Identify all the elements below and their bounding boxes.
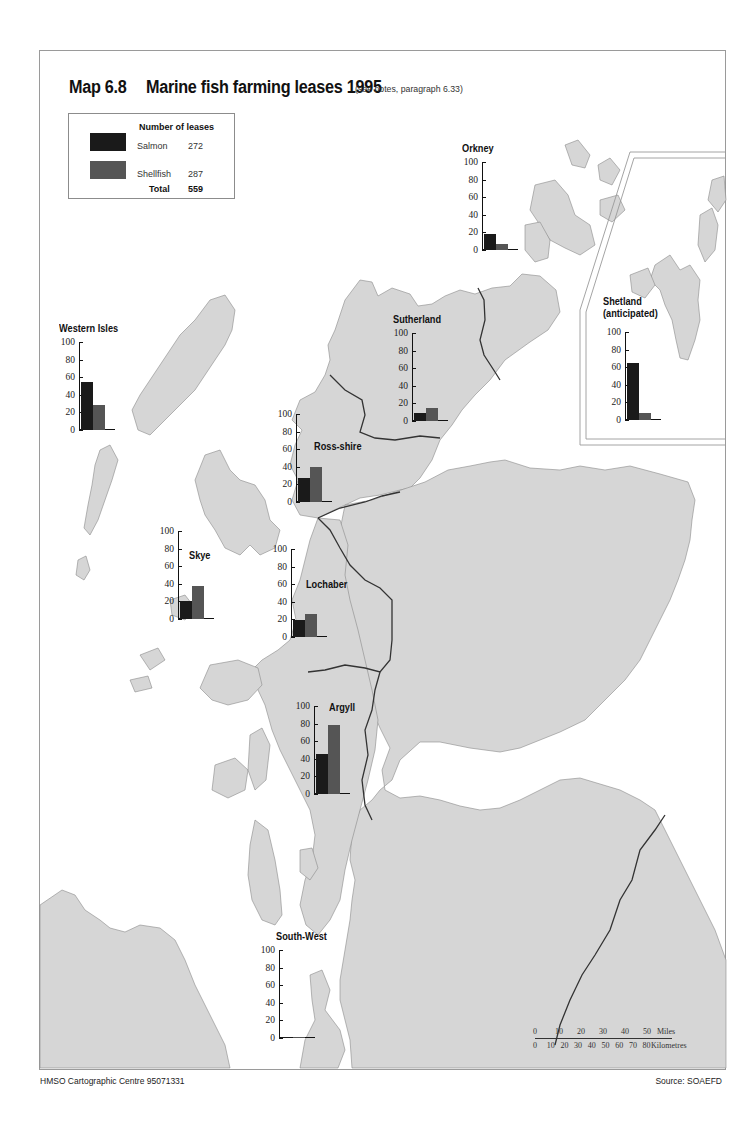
scale-miles-unit: Miles: [657, 1027, 675, 1036]
y-tick-label: 0: [253, 1033, 275, 1043]
scale-km-tick: 40: [588, 1041, 596, 1050]
y-tick-label: 60: [456, 192, 478, 202]
y-tick-mark: [178, 619, 182, 620]
y-tick-label: 0: [386, 416, 408, 426]
land-east-mainland: [328, 460, 726, 1068]
y-tick-label: 20: [386, 398, 408, 408]
y-tick-mark: [625, 332, 629, 333]
scale-km-tick: 60: [615, 1041, 623, 1050]
y-tick-mark: [79, 360, 83, 361]
y-tick-mark: [279, 950, 283, 951]
y-tick-mark: [296, 449, 300, 450]
scale-km-tick: 50: [602, 1041, 610, 1050]
bar-shellfish: [639, 413, 651, 420]
y-tick-label: 60: [53, 372, 75, 382]
y-tick-label: 80: [288, 719, 310, 729]
y-tick-mark: [625, 350, 629, 351]
y-axis: [314, 706, 315, 794]
y-tick-mark: [279, 968, 283, 969]
y-tick-label: 20: [456, 227, 478, 237]
land-kintyre: [248, 820, 282, 925]
y-tick-label: 0: [53, 425, 75, 435]
y-tick-label: 60: [270, 444, 292, 454]
region-label-shetland: Shetland: [603, 296, 642, 307]
scale-miles-tick: 20: [577, 1027, 585, 1036]
y-tick-mark: [291, 567, 295, 568]
y-axis: [482, 162, 483, 250]
y-tick-mark: [279, 1038, 283, 1039]
region-label-shetland-anticipated: (anticipated): [603, 308, 658, 319]
y-tick-label: 40: [53, 390, 75, 400]
y-tick-label: 60: [265, 579, 287, 589]
y-tick-mark: [482, 197, 486, 198]
y-tick-label: 0: [270, 497, 292, 507]
y-tick-mark: [291, 637, 295, 638]
y-tick-label: 20: [599, 397, 621, 407]
land-coll: [140, 648, 165, 670]
plot: 100806040200: [314, 706, 374, 794]
y-tick-mark: [79, 377, 83, 378]
land-jura: [248, 728, 270, 790]
y-tick-mark: [314, 706, 318, 707]
y-tick-mark: [291, 549, 295, 550]
y-axis: [291, 549, 292, 637]
scale-miles-tick: 0: [533, 1027, 537, 1036]
scale-bar: 01020304050Miles 01020304050607080Kilome…: [535, 1027, 715, 1053]
y-tick-label: 0: [152, 614, 174, 624]
scale-miles-tick: 50: [643, 1027, 651, 1036]
region-label-south-west: South-West: [276, 931, 327, 942]
plot: 100806040200: [296, 414, 356, 502]
y-tick-label: 80: [456, 175, 478, 185]
y-tick-mark: [314, 794, 318, 795]
y-tick-label: 40: [456, 210, 478, 220]
bar-salmon: [180, 601, 192, 619]
region-label-orkney: Orkney: [462, 143, 494, 154]
y-tick-label: 80: [53, 355, 75, 365]
y-axis: [296, 414, 297, 502]
y-axis: [178, 531, 179, 619]
y-tick-label: 20: [265, 614, 287, 624]
y-tick-label: 100: [253, 945, 275, 955]
bar-shellfish: [426, 408, 438, 421]
map-note: (see notes, paragraph 6.33): [355, 83, 463, 94]
plot: 100806040200: [625, 332, 685, 420]
y-tick-mark: [291, 602, 295, 603]
plot: 100806040200: [178, 531, 238, 619]
land-ireland: [40, 890, 230, 1068]
footer-source: Source: SOAEFD: [655, 1076, 722, 1086]
land-shetland-unst: [708, 176, 726, 212]
y-tick-label: 60: [288, 736, 310, 746]
bar-shellfish: [328, 725, 340, 794]
y-tick-label: 100: [270, 409, 292, 419]
y-tick-mark: [412, 403, 416, 404]
land-shetland-west: [630, 268, 655, 298]
y-tick-mark: [291, 584, 295, 585]
land-tiree: [130, 676, 152, 692]
bar-salmon: [627, 363, 639, 420]
y-tick-label: 40: [152, 579, 174, 589]
legend: Number of leases Salmon 272 Shellfish 28…: [68, 113, 235, 199]
y-tick-mark: [412, 351, 416, 352]
legend-title: Number of leases: [139, 122, 214, 132]
y-tick-mark: [482, 250, 486, 251]
y-tick-mark: [178, 531, 182, 532]
y-tick-label: 20: [53, 407, 75, 417]
y-tick-label: 40: [288, 754, 310, 764]
scale-km-tick: 30: [574, 1041, 582, 1050]
y-tick-mark: [412, 421, 416, 422]
scale-miles-tick: 10: [555, 1027, 563, 1036]
y-tick-label: 20: [270, 479, 292, 489]
bar-shellfish: [93, 405, 105, 430]
y-tick-mark: [296, 467, 300, 468]
land-shetland-yell: [698, 208, 718, 262]
y-tick-label: 40: [270, 462, 292, 472]
plot: 100806040200: [482, 162, 542, 250]
footer-credit: HMSO Cartographic Centre 95071331: [40, 1076, 185, 1086]
y-tick-mark: [314, 724, 318, 725]
region-label-sutherland: Sutherland: [393, 314, 441, 325]
y-tick-mark: [314, 741, 318, 742]
map-title: Marine fish farming leases 1995: [146, 77, 382, 98]
scale-km-tick: 10: [547, 1041, 555, 1050]
scale-km-tick: 80: [643, 1041, 651, 1050]
y-tick-label: 0: [599, 415, 621, 425]
